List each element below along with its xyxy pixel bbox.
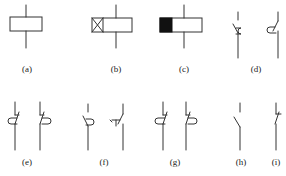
label-f: (f) bbox=[100, 157, 109, 167]
delay-opening-no-contact-right-icon bbox=[110, 104, 123, 150]
label-e: (e) bbox=[22, 157, 32, 167]
delay-operate-coil-icon bbox=[160, 5, 202, 48]
normally-closed-contact-icon bbox=[275, 103, 281, 150]
label-c: (c) bbox=[179, 64, 189, 74]
relay-coil-icon bbox=[10, 5, 42, 48]
label-g: (g) bbox=[170, 157, 181, 167]
label-h: (h) bbox=[236, 157, 247, 167]
relay-symbols-diagram: (a) (b) (c) (d) (e) (f) (g) (h) (i) bbox=[0, 0, 286, 176]
label-a: (a) bbox=[22, 64, 32, 74]
delay-release-coil-icon bbox=[92, 5, 132, 48]
delay-closing-nc-contact-right-icon bbox=[186, 102, 197, 150]
label-i: (i) bbox=[272, 157, 281, 167]
normally-open-contact-icon bbox=[234, 103, 240, 150]
label-d: (d) bbox=[251, 64, 262, 74]
label-b: (b) bbox=[111, 64, 122, 74]
delay-closing-contact-left-icon bbox=[233, 12, 241, 58]
delay-closing-nc-contact-left-icon bbox=[155, 102, 167, 150]
delay-opening-nc-contact-left-icon bbox=[8, 102, 19, 150]
delay-closing-contact-right-icon bbox=[267, 12, 278, 58]
delay-opening-no-contact-left-icon bbox=[83, 104, 94, 150]
delay-opening-nc-contact-right-icon bbox=[40, 102, 51, 150]
diagram-canvas bbox=[0, 0, 286, 176]
